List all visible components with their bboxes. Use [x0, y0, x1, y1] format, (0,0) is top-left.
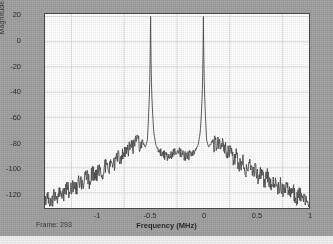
- y-tick-label: 20: [0, 10, 21, 19]
- x-tick-label: -1: [77, 211, 117, 220]
- y-tick-label: 0: [0, 36, 21, 45]
- y-axis-ticks: 20 0 -20 -40 -60 -80 -100 -120: [0, 0, 333, 244]
- x-tick-label: 0.5: [237, 211, 277, 220]
- frame-status-label: Frame: 293: [36, 221, 72, 228]
- y-tick-label: -120: [0, 190, 21, 199]
- y-tick-label: -80: [0, 139, 21, 148]
- x-tick-label: 1: [290, 211, 330, 220]
- x-tick-label: 0: [184, 211, 224, 220]
- y-tick-label: -60: [0, 113, 21, 122]
- figure-panel: Magnitude-squared, dB 20 0 -20 -40 -60 -…: [0, 0, 333, 244]
- y-tick-label: -100: [0, 164, 21, 173]
- y-tick-label: -40: [0, 87, 21, 96]
- x-tick-label: -0.5: [130, 211, 170, 220]
- y-tick-label: -20: [0, 62, 21, 71]
